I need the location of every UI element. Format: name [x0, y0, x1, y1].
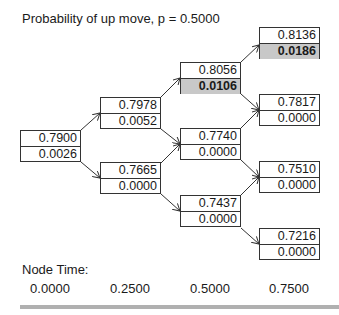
node-option-value: 0.0000: [260, 245, 319, 260]
node-value: 0.8056: [181, 63, 240, 79]
node-value: 0.7817: [260, 95, 319, 111]
node-t3-uud: 0.7817 0.0000: [259, 94, 320, 126]
node-value: 0.7437: [181, 196, 240, 212]
node-option-value-highlighted: 0.0186: [260, 44, 319, 59]
node-value: 0.7900: [21, 131, 80, 147]
node-t1-down: 0.7665 0.0000: [100, 162, 161, 194]
node-value: 0.7740: [181, 129, 240, 145]
node-option-value: 0.0000: [181, 145, 240, 160]
node-time-2: 0.5000: [175, 281, 245, 296]
node-t3-uuu: 0.8136 0.0186: [259, 27, 320, 59]
node-value: 0.8136: [260, 28, 319, 44]
node-option-value: 0.0000: [260, 178, 319, 193]
node-value: 0.7978: [101, 98, 160, 114]
node-value: 0.7510: [260, 162, 319, 178]
node-option-value: 0.0000: [260, 111, 319, 126]
divider-bar: [20, 305, 339, 309]
node-t2-updown: 0.7740 0.0000: [180, 128, 241, 160]
node-t0: 0.7900 0.0026: [20, 130, 81, 162]
node-option-value: 0.0000: [181, 212, 240, 227]
node-value: 0.7665: [101, 163, 160, 179]
node-time-label: Node Time:: [22, 262, 88, 277]
node-time-3: 0.7500: [254, 281, 324, 296]
node-time-0: 0.0000: [15, 281, 85, 296]
node-t3-udd: 0.7510 0.0000: [259, 161, 320, 193]
node-time-1: 0.2500: [95, 281, 165, 296]
node-option-value-highlighted: 0.0106: [181, 79, 240, 94]
node-t2-downdown: 0.7437 0.0000: [180, 195, 241, 227]
node-option-value: 0.0000: [101, 179, 160, 194]
node-t2-upup: 0.8056 0.0106: [180, 62, 241, 94]
node-option-value: 0.0026: [21, 147, 80, 162]
node-t1-up: 0.7978 0.0052: [100, 97, 161, 129]
node-value: 0.7216: [260, 229, 319, 245]
node-t3-ddd: 0.7216 0.0000: [259, 228, 320, 260]
node-option-value: 0.0052: [101, 114, 160, 129]
